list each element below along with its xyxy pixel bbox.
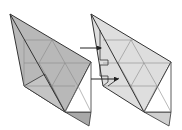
right-figure <box>91 14 171 126</box>
diagram-svg <box>0 0 182 130</box>
left-bottom-flap <box>65 112 91 126</box>
diagram-canvas <box>0 0 182 130</box>
left-figure <box>10 14 91 126</box>
right-bottom-flap <box>144 112 171 126</box>
